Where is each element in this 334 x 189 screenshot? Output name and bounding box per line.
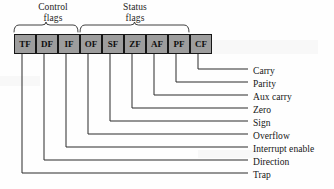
flag-label-overflow: Overflow [253, 131, 290, 141]
flag-label-interrupt-enable: Interrupt enable [253, 144, 314, 154]
flag-label-trap: Trap [253, 170, 271, 180]
flag-box-pf[interactable]: PF [168, 34, 190, 54]
flag-box-of[interactable]: OF [80, 34, 102, 54]
leader-line-df [44, 54, 248, 160]
flag-label-direction: Direction [253, 157, 289, 167]
flag-box-cf[interactable]: CF [190, 34, 212, 54]
leader-line-sf [110, 54, 248, 121]
flag-box-if[interactable]: IF [58, 34, 80, 54]
flag-box-sf[interactable]: SF [102, 34, 124, 54]
flag-box-zf[interactable]: ZF [124, 34, 146, 54]
flag-label-zero: Zero [253, 105, 271, 115]
group-title-status: Status flags [104, 2, 166, 24]
leader-line-pf [176, 54, 248, 82]
flags-register-diagram: Control flags Status flags TF DF IF OF S… [0, 0, 334, 189]
flag-box-tf[interactable]: TF [14, 34, 36, 54]
flag-box-df[interactable]: DF [36, 34, 58, 54]
leader-line-if [66, 54, 248, 147]
flag-label-carry: Carry [253, 66, 275, 76]
flag-label-aux-carry: Aux carry [253, 92, 292, 102]
leader-line-of [88, 54, 248, 134]
leader-line-cf [198, 54, 248, 69]
leader-line-af [154, 54, 248, 95]
flag-box-af[interactable]: AF [146, 34, 168, 54]
leader-line-zf [132, 54, 248, 108]
leader-line-tf [22, 54, 248, 173]
group-title-control: Control flags [22, 2, 84, 24]
flag-label-parity: Parity [253, 79, 276, 89]
flag-label-sign: Sign [253, 118, 271, 128]
